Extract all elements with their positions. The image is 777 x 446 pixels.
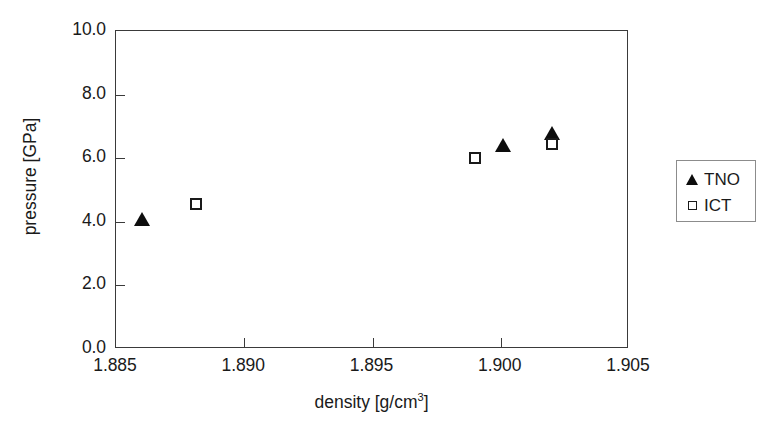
y-axis-tick-label: 2.0	[6, 275, 106, 293]
data-point-tno	[134, 212, 150, 226]
x-axis-tick	[244, 338, 245, 347]
x-axis-tick-labels: 1.8851.8901.8951.9001.905	[115, 357, 628, 381]
chart-figure: 0.02.04.06.08.010.0 pressure [GPa] 1.885…	[0, 0, 777, 446]
y-axis-tick	[116, 285, 125, 286]
y-axis-tick-label: 0.0	[6, 339, 106, 357]
chart-legend: TNOICT	[676, 160, 756, 222]
y-axis-tick-labels: 0.02.04.06.08.010.0	[0, 30, 106, 348]
x-axis-tick	[373, 338, 374, 347]
x-axis-tick-label: 1.885	[55, 357, 175, 375]
x-axis-title-tail: ]	[424, 392, 429, 412]
legend-label: ICT	[704, 197, 731, 214]
triangle-icon	[684, 174, 700, 185]
data-point-ict	[469, 152, 481, 164]
x-axis-title: density [g/cm3]	[115, 392, 628, 413]
y-axis-title: pressure [GPa]	[20, 77, 41, 277]
x-axis-title-base: density [g/cm	[314, 392, 417, 412]
plot-frame	[115, 30, 628, 348]
data-point-tno	[495, 138, 511, 152]
y-axis-tick	[116, 222, 125, 223]
data-point-ict	[190, 198, 202, 210]
x-axis-tick-label: 1.890	[183, 357, 303, 375]
y-axis-tick-label: 10.0	[6, 21, 106, 39]
x-axis-tick-label: 1.900	[440, 357, 560, 375]
x-axis-tick-label: 1.895	[312, 357, 432, 375]
legend-label: TNO	[704, 171, 740, 188]
legend-entry-tno[interactable]: TNO	[684, 166, 755, 192]
legend-marker-glyph	[686, 174, 698, 185]
plot-area	[116, 31, 627, 347]
x-axis-tick	[501, 338, 502, 347]
square-icon	[684, 201, 700, 210]
legend-entry-ict[interactable]: ICT	[684, 192, 755, 218]
data-point-ict	[546, 138, 558, 150]
x-axis-tick-label: 1.905	[568, 357, 688, 375]
legend-marker-glyph	[688, 201, 697, 210]
y-axis-tick	[116, 158, 125, 159]
y-axis-tick	[116, 95, 125, 96]
